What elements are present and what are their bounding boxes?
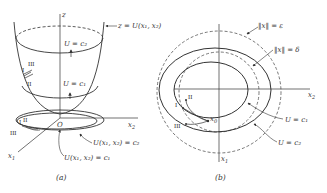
- trajectory-III: [186, 121, 208, 124]
- caption-b: (b): [215, 173, 226, 182]
- caption-a: (a): [56, 173, 66, 182]
- level-c2-curve: [16, 38, 103, 53]
- c1-pointer: [248, 103, 283, 119]
- surface-label: z = U(x₁, x₂): [117, 22, 162, 30]
- contour-c1-pointer: [59, 130, 64, 156]
- trajectory-II-end: [185, 99, 187, 101]
- epsilon-label: ‖x‖ = ε: [258, 22, 283, 30]
- level-c1-label: U = c₁: [63, 80, 86, 88]
- level-c2-label: U = c₂: [64, 40, 87, 48]
- lyapunov-stability-figure: z x2 x1 O U = c₂ U = c₁ z = U(x₁, x₂) II…: [0, 0, 327, 193]
- x2-axis-label-b: x2: [308, 91, 315, 100]
- x2-axis-label: x2: [128, 121, 135, 130]
- floor-traj-label-I: I: [19, 118, 21, 125]
- panel-b: x2 x1 ‖x‖ = ε ‖x‖ = δ U = c₁ U = c₂ x0 I…: [157, 22, 315, 182]
- delta-pointer: [253, 50, 273, 66]
- x0-label: x0: [210, 115, 218, 124]
- traj-label-II: II: [27, 80, 31, 87]
- rim-back-dashed: [16, 26, 103, 38]
- contour-c2-label: U(x₁, x₂) = c₂: [93, 139, 140, 147]
- contour-c1-label: U(x₁, x₂) = c₁: [64, 154, 111, 162]
- x1-axis: [18, 118, 60, 152]
- traj-label-III: III: [28, 60, 35, 67]
- traj-I-label-b: I: [175, 101, 177, 108]
- trajectory-I-end: [182, 107, 184, 109]
- origin-label: O: [57, 121, 63, 129]
- x1-axis-label: x1: [8, 152, 15, 161]
- delta-label: ‖x‖ = δ: [274, 46, 299, 54]
- contour-c1-label-b: U = c₁: [285, 116, 308, 124]
- contour-c2-pointer: [80, 134, 92, 143]
- c2-pointer: [254, 124, 277, 142]
- epsilon-pointer: [247, 27, 258, 34]
- x1-axis-label-b: x1: [221, 155, 228, 164]
- surface-trajectories: [24, 70, 33, 78]
- z-axis-label: z: [61, 11, 66, 19]
- traj-III-label-b: III: [174, 122, 181, 129]
- traj-II-label-b: II: [188, 93, 192, 100]
- traj-label-I: I: [22, 66, 24, 73]
- bowl-surface: [14, 22, 104, 114]
- trajectory-III-end: [185, 123, 187, 125]
- trajectory-I: [183, 108, 208, 121]
- panel-a: z x2 x1 O U = c₂ U = c₁ z = U(x₁, x₂) II…: [8, 11, 162, 182]
- floor-traj-label-III: III: [10, 129, 17, 136]
- contour-c2-label-b: U = c₂: [278, 139, 301, 147]
- floor-traj-label-II: II: [23, 116, 27, 123]
